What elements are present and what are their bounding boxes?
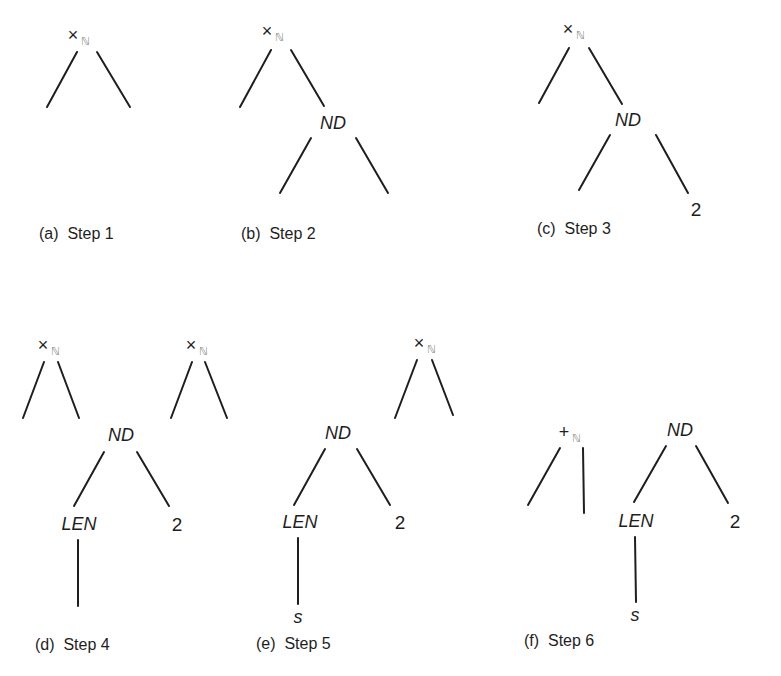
node-label: 2: [691, 199, 702, 220]
tree-node: LEN: [282, 513, 317, 531]
tree-node: ND: [108, 426, 134, 444]
tree-node: ×ℕ: [262, 22, 285, 40]
node-label: ×: [563, 19, 574, 39]
tree-edge: [240, 50, 271, 107]
type-subscript: ℕ: [51, 345, 60, 357]
tree-construction-figure: ×ℕ(a) Step 1×ℕND(b) Step 2×ℕND2(c) Step …: [0, 0, 781, 676]
tree-node: 2: [172, 515, 183, 534]
panel-caption-a: (a) Step 1: [39, 226, 114, 242]
panel-caption-f: (f) Step 6: [524, 633, 594, 649]
tree-node: ×ℕ: [563, 20, 586, 38]
panel-e-edges: [171, 362, 390, 604]
tree-edges: [0, 0, 781, 676]
tree-edge: [583, 448, 584, 513]
tree-edge: [357, 449, 390, 505]
tree-edge: [97, 52, 130, 107]
tree-edge: [539, 48, 569, 103]
tree-node: ×ℕ: [414, 334, 437, 352]
type-subscript: ℕ: [275, 31, 284, 43]
tree-edge: [528, 448, 560, 505]
node-label: ×: [414, 333, 425, 353]
tree-edge: [291, 50, 324, 106]
tree-node: ND: [667, 421, 693, 439]
panel-c-edges: [539, 48, 688, 193]
node-label: 2: [172, 514, 183, 535]
node-label: +: [559, 422, 570, 442]
tree-node: ×ℕ: [38, 336, 61, 354]
tree-edge: [171, 362, 192, 418]
tree-node: 2: [730, 512, 741, 531]
tree-edge: [656, 135, 688, 193]
tree-edge: [634, 446, 666, 502]
tree-node: LEN: [61, 515, 96, 533]
node-label: LEN: [618, 511, 653, 531]
tree-node: +ℕ: [559, 423, 582, 441]
node-label: ND: [108, 425, 134, 445]
type-subscript: ℕ: [427, 343, 436, 355]
node-label: s: [631, 605, 640, 625]
tree-edge: [635, 537, 636, 602]
tree-edge: [356, 138, 388, 193]
tree-node: s: [631, 606, 640, 624]
panel-caption-c: (c) Step 3: [537, 221, 611, 237]
tree-edge: [47, 52, 77, 107]
tree-node: ND: [615, 111, 641, 129]
tree-edge: [23, 362, 44, 418]
panel-a-edges: [47, 52, 130, 107]
tree-edge: [579, 135, 610, 190]
tree-node: 2: [395, 513, 406, 532]
node-label: ND: [667, 420, 693, 440]
type-subscript: ℕ: [572, 432, 581, 444]
type-subscript: ℕ: [81, 35, 90, 47]
tree-node: 2: [691, 200, 702, 219]
node-label: ND: [615, 110, 641, 130]
tree-edge: [137, 452, 169, 506]
tree-edge: [395, 360, 417, 418]
tree-node: ×ℕ: [68, 26, 91, 44]
node-label: 2: [395, 512, 406, 533]
node-label: ×: [68, 25, 79, 45]
tree-node: s: [294, 608, 303, 626]
tree-edge: [280, 138, 311, 193]
tree-edge: [58, 362, 79, 418]
tree-edge: [432, 360, 453, 415]
node-label: LEN: [282, 512, 317, 532]
tree-edge: [696, 446, 728, 503]
node-label: ND: [325, 423, 351, 443]
node-label: LEN: [61, 514, 96, 534]
node-label: ND: [320, 113, 346, 133]
node-label: ×: [38, 335, 49, 355]
tree-edge: [205, 362, 227, 418]
tree-node: ×ℕ: [186, 336, 209, 354]
type-subscript: ℕ: [199, 345, 208, 357]
tree-node: LEN: [618, 512, 653, 530]
panel-caption-d: (d) Step 4: [35, 637, 110, 653]
node-label: 2: [730, 511, 741, 532]
panel-caption-e: (e) Step 5: [256, 636, 331, 652]
tree-node: ND: [320, 114, 346, 132]
tree-edge: [294, 449, 325, 505]
type-subscript: ℕ: [576, 29, 585, 41]
panel-d-edges: [23, 362, 169, 606]
node-label: ×: [186, 335, 197, 355]
tree-node: ND: [325, 424, 351, 442]
tree-edge: [74, 452, 104, 506]
tree-edge: [589, 48, 622, 104]
panel-f-edges: [395, 360, 728, 602]
panel-b-edges: [240, 50, 388, 193]
panel-caption-b: (b) Step 2: [241, 226, 316, 242]
node-label: ×: [262, 21, 273, 41]
node-label: s: [294, 607, 303, 627]
